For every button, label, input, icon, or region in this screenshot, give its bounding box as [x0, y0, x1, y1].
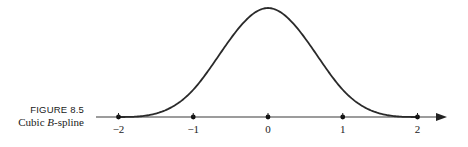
spline-curve: [119, 8, 418, 117]
tick-label: −1: [187, 123, 199, 135]
axis-arrow-icon: [436, 113, 447, 121]
tick-label: −2: [113, 123, 125, 135]
tick-label: 1: [340, 123, 346, 135]
tick-labels: −2−1012: [113, 123, 421, 135]
tick-markers: [116, 113, 420, 119]
tick-label: 2: [415, 123, 421, 135]
tick-label: 0: [265, 123, 271, 135]
b-spline-chart: −2−1012: [0, 0, 468, 147]
